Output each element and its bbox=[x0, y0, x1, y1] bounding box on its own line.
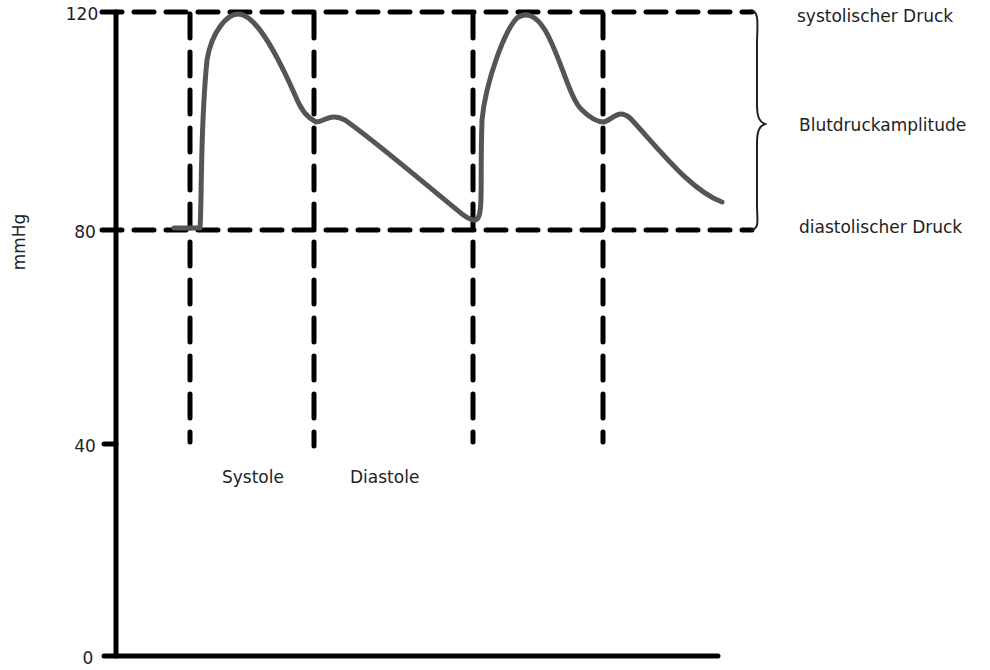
pressure-curve bbox=[174, 14, 722, 228]
y-tick-label-80: 80 bbox=[74, 222, 96, 242]
y-tick-label-0: 0 bbox=[83, 648, 94, 668]
systolic-label: systolischer Druck bbox=[797, 6, 953, 26]
y-tick-label-120: 120 bbox=[66, 4, 98, 24]
y-tick-labels: 120 80 40 0 bbox=[66, 4, 98, 668]
amplitude-label: Blutdruckamplitude bbox=[799, 115, 966, 135]
amplitude-brace-icon bbox=[751, 10, 765, 230]
blood-pressure-chart: 120 80 40 0 mmHg systolischer Druck Blut… bbox=[0, 0, 990, 670]
phase-labels: Systole Diastole bbox=[222, 467, 419, 487]
brace-labels: systolischer Druck Blutdruckamplitude di… bbox=[797, 6, 966, 237]
systole-label: Systole bbox=[222, 467, 284, 487]
y-axis-title: mmHg bbox=[9, 214, 29, 271]
diastole-label: Diastole bbox=[350, 467, 419, 487]
diastolic-label: diastolischer Druck bbox=[799, 217, 962, 237]
axes bbox=[104, 12, 718, 656]
y-tick-label-40: 40 bbox=[74, 436, 96, 456]
